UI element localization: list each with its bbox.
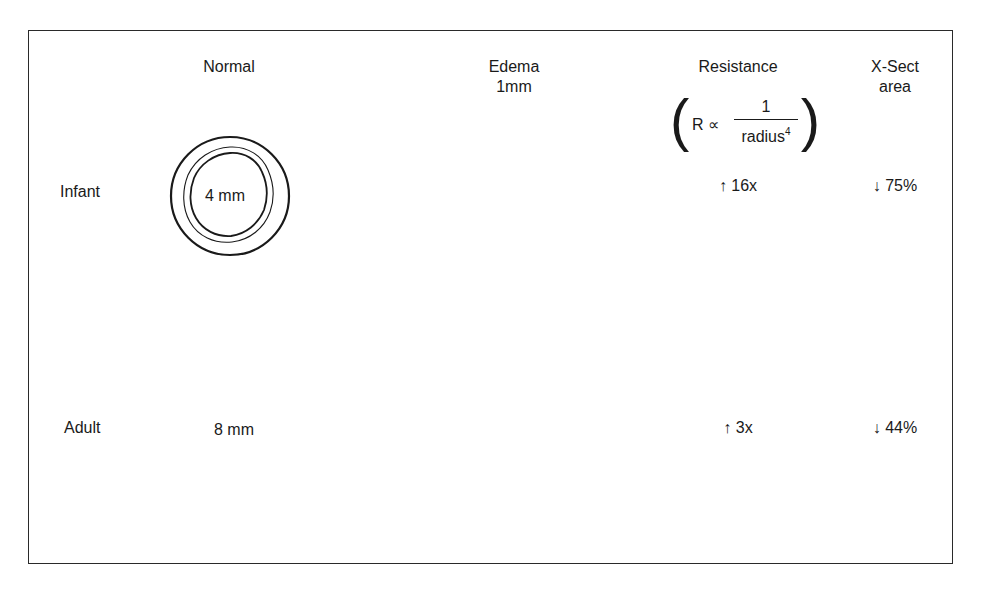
infant-area-change: ↓ 75% — [873, 176, 917, 196]
airway-cross-sections — [0, 0, 982, 596]
adult-area-change: ↓ 44% — [873, 418, 917, 438]
adult-resistance-change: ↑ 3x — [723, 418, 752, 438]
infant-diameter-label: 4 mm — [205, 186, 245, 206]
adult-diameter-label: 8 mm — [214, 420, 254, 440]
infant-resistance-change: ↑ 16x — [719, 176, 757, 196]
